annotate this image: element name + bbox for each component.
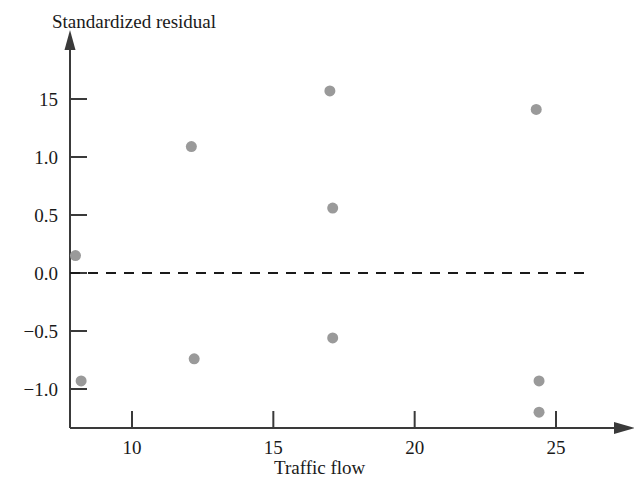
- data-point: [327, 332, 338, 343]
- scatter-plot-figure: Standardized residual Traffic flow 151.0…: [0, 0, 634, 491]
- data-point: [70, 250, 81, 261]
- x-tick-label: 25: [533, 438, 579, 457]
- y-axis-arrowhead: [65, 30, 76, 50]
- x-tick-label: 10: [109, 438, 155, 457]
- y-tick-label: 1.0: [4, 148, 58, 167]
- data-point: [324, 85, 335, 96]
- y-tick-label: −1.0: [4, 380, 58, 399]
- y-tick-label: 0.5: [4, 206, 58, 225]
- axes-group: [65, 30, 634, 434]
- x-axis-arrowhead: [614, 422, 634, 434]
- data-point: [534, 407, 545, 418]
- data-point: [186, 141, 197, 152]
- tick-marks-group: [70, 99, 556, 428]
- data-point: [327, 203, 338, 214]
- data-point: [534, 375, 545, 386]
- y-tick-label: −0.5: [4, 322, 58, 341]
- x-tick-label: 15: [250, 438, 296, 457]
- data-points-group: [70, 85, 545, 417]
- data-point: [189, 353, 200, 364]
- data-point: [531, 104, 542, 115]
- x-axis-title: Traffic flow: [274, 458, 365, 477]
- y-tick-label: 15: [4, 90, 58, 109]
- data-point: [76, 375, 87, 386]
- y-axis-title: Standardized residual: [52, 12, 216, 31]
- x-tick-label: 20: [392, 438, 438, 457]
- y-tick-label: 0.0: [4, 264, 58, 283]
- chart-canvas: [0, 0, 634, 491]
